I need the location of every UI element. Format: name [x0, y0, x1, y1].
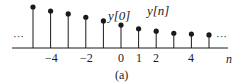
figure-caption: (a)	[115, 68, 128, 82]
annotation-y0: y[0]	[106, 8, 130, 23]
annotation-yn: y[n]	[145, 3, 169, 18]
stem-dot	[118, 22, 123, 27]
tick-label: −4	[45, 51, 58, 65]
tick-label: 0	[118, 51, 124, 65]
tick-label: 4	[188, 51, 194, 65]
ellipsis-left: ···	[13, 30, 24, 42]
stem-dot	[30, 4, 35, 9]
tick-label: −2	[80, 51, 93, 65]
stem-dot	[171, 31, 176, 36]
stem-dot	[136, 26, 141, 31]
stem-plot: ··· ··· y[0] y[n] −4 −2 0 1 2 4 n (a)	[0, 0, 247, 83]
stem-dot	[66, 11, 71, 16]
stem-dot	[101, 18, 106, 23]
tick-label: 2	[153, 51, 159, 65]
stem-dot	[83, 15, 88, 20]
stem-dot	[189, 31, 194, 36]
ellipsis-right: ···	[216, 30, 227, 42]
stem-dot	[206, 32, 211, 37]
tick-label: 1	[136, 51, 142, 65]
x-axis-label: n	[226, 52, 232, 66]
stem-dot	[154, 29, 159, 34]
stem-dot	[48, 9, 53, 14]
